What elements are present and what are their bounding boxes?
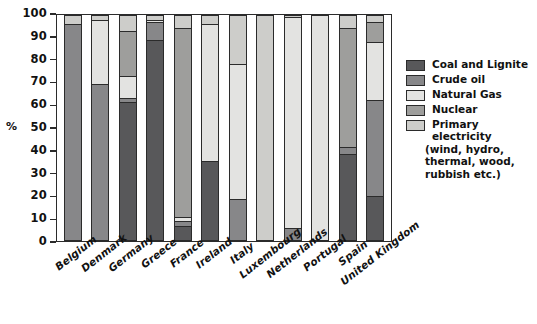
stacked-bar[interactable] — [201, 15, 219, 241]
bar-segment — [65, 25, 81, 240]
y-axis-tick-label: 0 — [39, 234, 47, 249]
legend-sublabel: (wind, hydro, — [425, 143, 537, 155]
bar-segment — [367, 16, 383, 23]
bar-segment — [147, 23, 163, 41]
legend-label: Coal and Lignite — [432, 58, 528, 70]
stacked-bar[interactable] — [311, 15, 329, 241]
x-axis-labels: BelgiumDenmarkGermanyGreeceFranceIreland… — [56, 242, 392, 324]
y-axis-tick-label: 100 — [22, 6, 47, 21]
bar-segment — [367, 23, 383, 43]
bar-segment — [147, 41, 163, 240]
stacked-bar[interactable] — [229, 15, 247, 241]
bar-segment — [230, 16, 246, 65]
x-axis-label-slot: Portugal — [307, 242, 335, 324]
legend-swatch — [406, 120, 425, 131]
bar-segment — [257, 16, 273, 240]
bar-segment — [120, 16, 136, 32]
y-axis-tick-label: 60 — [31, 97, 47, 112]
bar-segment — [312, 16, 328, 240]
chart-legend: Coal and LigniteCrude oilNatural GasNucl… — [406, 58, 537, 182]
legend-sublabel: thermal, wood, — [425, 155, 537, 167]
legend-entry[interactable]: Natural Gas — [406, 88, 537, 101]
stacked-bar[interactable] — [174, 15, 192, 241]
stacked-bar[interactable] — [119, 15, 137, 241]
bar-slot — [169, 15, 197, 241]
x-axis-label-slot: Italy — [224, 242, 252, 324]
x-axis-label-slot: United Kingdom — [362, 242, 390, 324]
bar-segment — [340, 16, 356, 29]
bar-segment — [340, 29, 356, 148]
y-axis: 0102030405060708090100% — [0, 14, 56, 242]
bar-slot — [142, 15, 170, 241]
x-axis-label-slot: Denmark — [86, 242, 114, 324]
stacked-bar-chart: 0102030405060708090100% BelgiumDenmarkGe… — [0, 0, 537, 324]
bar-segment — [340, 148, 356, 155]
x-axis-label-slot: Germany — [113, 242, 141, 324]
bar-slot — [279, 15, 307, 241]
legend-entry[interactable]: Crude oil — [406, 73, 537, 86]
bar-segment — [285, 18, 301, 229]
stacked-bar[interactable] — [91, 15, 109, 241]
bar-segment — [367, 101, 383, 197]
legend-swatch — [406, 75, 425, 86]
y-axis-tick-label: 50 — [31, 120, 47, 135]
stacked-bar[interactable] — [146, 15, 164, 241]
stacked-bar[interactable] — [64, 15, 82, 241]
bar-slot — [362, 15, 390, 241]
legend-sublabel: rubbish etc.) — [425, 168, 537, 180]
bar-segment — [202, 16, 218, 25]
bar-segment — [175, 16, 191, 29]
bar-segment — [120, 77, 136, 99]
stacked-bar[interactable] — [256, 15, 274, 241]
x-axis-label-slot: France — [169, 242, 197, 324]
plot-area — [56, 14, 392, 242]
bar-segment — [175, 29, 191, 217]
x-axis-label-slot: Belgium — [58, 242, 86, 324]
legend-swatch — [406, 105, 425, 116]
y-axis-tick-label: 20 — [31, 188, 47, 203]
legend-entry[interactable]: Coal and Lignite — [406, 58, 537, 71]
bar-segment — [367, 43, 383, 101]
stacked-bar[interactable] — [366, 15, 384, 241]
legend-label: Primary electricity — [432, 118, 537, 143]
y-axis-tick-label: 70 — [31, 74, 47, 89]
bar-segment — [120, 103, 136, 240]
x-axis-label-slot: Greece — [141, 242, 169, 324]
bar-segment — [92, 21, 108, 86]
bar-segment — [65, 16, 81, 25]
bar-slot — [59, 15, 87, 241]
bar-segment — [367, 197, 383, 240]
bars-container — [57, 15, 391, 241]
legend-label: Natural Gas — [432, 88, 502, 100]
stacked-bar[interactable] — [284, 15, 302, 241]
y-axis-tick-label: 10 — [31, 211, 47, 226]
y-axis-tick-label: 30 — [31, 166, 47, 181]
bar-slot — [87, 15, 115, 241]
x-axis-label-slot: Luxembourg — [252, 242, 280, 324]
stacked-bar[interactable] — [339, 15, 357, 241]
bar-slot — [224, 15, 252, 241]
bar-slot — [197, 15, 225, 241]
bar-slot — [252, 15, 280, 241]
bar-segment — [175, 227, 191, 240]
bar-segment — [230, 65, 246, 199]
bar-segment — [340, 155, 356, 240]
legend-label: Crude oil — [432, 73, 485, 85]
y-axis-tick-label: 80 — [31, 52, 47, 67]
bar-segment — [202, 162, 218, 240]
bar-slot — [307, 15, 335, 241]
x-axis-label-slot: Ireland — [196, 242, 224, 324]
bar-slot — [114, 15, 142, 241]
bar-segment — [92, 85, 108, 240]
bar-segment — [120, 32, 136, 77]
legend-label: Nuclear — [432, 103, 477, 115]
y-axis-tick-label: 40 — [31, 143, 47, 158]
legend-swatch — [406, 90, 425, 101]
bar-segment — [230, 200, 246, 240]
bar-slot — [334, 15, 362, 241]
legend-entry[interactable]: Nuclear — [406, 103, 537, 116]
y-axis-tick-label: 90 — [31, 29, 47, 44]
x-axis-label-slot: Netherlands — [279, 242, 307, 324]
legend-entry[interactable]: Primary electricity(wind, hydro,thermal,… — [406, 118, 537, 180]
y-axis-unit-label: % — [6, 120, 17, 133]
